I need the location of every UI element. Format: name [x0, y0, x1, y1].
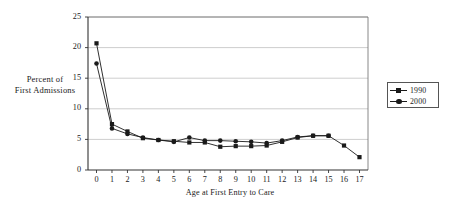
- data-point-2000-12: [280, 138, 285, 143]
- y-tick-label-0: 0: [59, 165, 81, 174]
- data-point-2000-9: [233, 139, 238, 144]
- legend-label-1990: 1990: [410, 86, 426, 95]
- legend-label-2000: 2000: [410, 97, 426, 106]
- legend-line-icon-2000: [390, 97, 407, 106]
- data-point-2000-8: [218, 138, 223, 143]
- data-point-2000-7: [203, 138, 208, 143]
- series-line-1990: [97, 43, 360, 157]
- data-point-1990-17: [357, 155, 361, 159]
- data-point-1990-6: [187, 140, 191, 144]
- data-point-2000-15: [326, 133, 331, 138]
- data-point-2000-14: [311, 133, 316, 138]
- data-point-2000-4: [156, 138, 161, 143]
- series-line-2000: [97, 64, 329, 144]
- legend-item-1990: 1990: [390, 85, 426, 96]
- data-point-2000-10: [249, 140, 254, 145]
- data-point-2000-2: [125, 132, 130, 137]
- y-tick-label-5: 5: [59, 134, 81, 143]
- y-tick-label-20: 20: [59, 42, 81, 51]
- data-point-1990-0: [94, 41, 98, 45]
- legend-item-2000: 2000: [390, 96, 426, 107]
- x-tick-label-17: 17: [349, 175, 369, 184]
- data-point-1990-8: [218, 145, 222, 149]
- y-tick-label-15: 15: [59, 73, 81, 82]
- data-point-2000-13: [295, 135, 300, 140]
- data-point-1990-16: [342, 143, 346, 147]
- square-marker-icon: [396, 88, 401, 93]
- chart-legend: 1990 2000: [387, 82, 439, 108]
- circle-marker-icon: [396, 99, 402, 105]
- data-point-1990-10: [249, 144, 253, 148]
- data-point-2000-11: [264, 141, 269, 146]
- data-point-1990-9: [234, 144, 238, 148]
- data-point-2000-0: [94, 61, 99, 66]
- data-point-2000-6: [187, 135, 192, 140]
- y-tick-label-25: 25: [59, 12, 81, 21]
- data-point-2000-3: [141, 135, 146, 140]
- chart-figure: Percent of First Admissions Age at First…: [0, 0, 450, 215]
- legend-line-icon-1990: [390, 86, 407, 95]
- data-point-2000-1: [110, 126, 115, 131]
- data-point-2000-5: [172, 140, 177, 145]
- y-tick-label-10: 10: [59, 103, 81, 112]
